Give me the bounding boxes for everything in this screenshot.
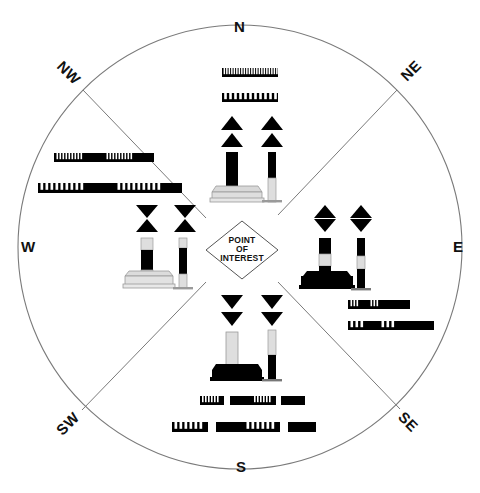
south-spar-buoy bbox=[262, 330, 282, 381]
west-topmark-spar bbox=[174, 205, 196, 232]
west-light-rhythm-q9 bbox=[54, 153, 154, 162]
north-light-rhythm-q bbox=[222, 93, 278, 102]
north-topmark-pillar bbox=[221, 116, 243, 147]
compass-label-north: N bbox=[234, 18, 245, 35]
north-topmark-spar bbox=[261, 116, 283, 147]
west-light-rhythm-vq9 bbox=[38, 183, 182, 193]
east-pillar-buoy bbox=[299, 238, 355, 289]
west-pillar-buoy bbox=[123, 238, 175, 288]
north-spar-buoy bbox=[262, 152, 282, 202]
divider-ne-2 bbox=[82, 282, 206, 410]
south-cardinal-group bbox=[172, 295, 316, 432]
divider-ne bbox=[278, 90, 397, 215]
poi-line-3: INTEREST bbox=[213, 254, 271, 263]
east-spar-buoy bbox=[351, 238, 371, 290]
east-light-rhythm-vq3 bbox=[348, 300, 410, 309]
west-cardinal-group bbox=[38, 153, 196, 289]
north-pillar-buoy bbox=[210, 152, 264, 202]
east-light-rhythm-q3 bbox=[348, 321, 434, 330]
south-topmark-pillar bbox=[221, 295, 243, 326]
north-cardinal-group bbox=[210, 68, 283, 202]
south-light-rhythm-q6-lfl bbox=[172, 422, 316, 432]
compass-label-south: S bbox=[236, 458, 247, 475]
point-of-interest-label: POINT OF INTEREST bbox=[213, 236, 271, 264]
east-topmark-pillar bbox=[314, 205, 336, 232]
compass-label-east: E bbox=[453, 238, 464, 255]
compass-label-west: W bbox=[21, 238, 36, 255]
east-topmark-spar bbox=[350, 205, 372, 232]
south-light-rhythm-vq6-lfl bbox=[200, 396, 305, 405]
west-spar-buoy bbox=[173, 238, 193, 289]
north-light-rhythm-vq bbox=[222, 68, 278, 77]
south-topmark-spar bbox=[261, 295, 283, 326]
west-topmark-pillar bbox=[136, 205, 158, 232]
south-pillar-buoy bbox=[210, 332, 264, 381]
cardinal-mark-diagram: N E S W NE SE SW NW POINT OF INTEREST bbox=[0, 0, 480, 493]
east-cardinal-group bbox=[299, 205, 434, 330]
